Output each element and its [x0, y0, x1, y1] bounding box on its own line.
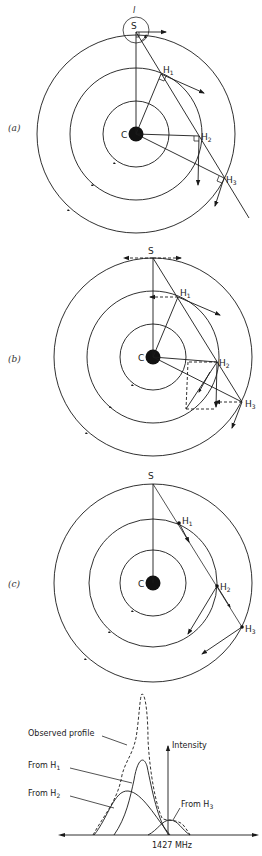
rotation-arrow-icon: [113, 162, 116, 164]
from-h1-leader: [70, 768, 132, 783]
radius-h1: [136, 74, 161, 134]
rotation-arrow-icon: [85, 432, 88, 434]
velocity-h2: [188, 586, 217, 634]
rotation-arrow-icon: [84, 658, 87, 660]
radius-h2: [153, 357, 217, 362]
cloud-label-h2: H2: [219, 358, 230, 369]
cloud-label-h3: H3: [245, 624, 256, 635]
cloud-label-h1: H1: [180, 288, 191, 299]
from-h1-label: From H1: [28, 761, 60, 771]
from-h3-leader: [173, 808, 180, 820]
line-of-sight: [136, 32, 249, 218]
intensity-label: Intensity: [172, 741, 207, 750]
sun-marker-label: l: [133, 6, 136, 15]
rotation-arrow-icon: [131, 384, 134, 386]
cloud-label-h2: H2: [201, 132, 212, 143]
panel-b: (b) C S H1 H2 H3: [8, 246, 256, 456]
center-label: C: [138, 353, 144, 363]
panel-a: (a) C S l H1: [8, 6, 249, 233]
center-label: C: [121, 130, 127, 140]
spectrum-plot: Intensity 1427 MHz Observed profile From…: [28, 694, 259, 850]
velocity-h3: [202, 627, 242, 654]
cloud-label-h1: H1: [163, 65, 174, 76]
velocity-h2: [216, 362, 217, 407]
from-h2-leader: [70, 796, 114, 808]
from-h3-label: From H3: [181, 800, 213, 810]
right-angle-mark: [194, 136, 199, 141]
panel-label-a: (a): [8, 123, 21, 133]
frequency-tick-label: 1427 MHz: [152, 841, 192, 850]
panel-label-b: (b): [8, 354, 21, 364]
observed-profile: [93, 694, 190, 835]
radius-h1: [153, 297, 178, 357]
panel-label-c: (c): [8, 579, 21, 589]
radial-component-h2: [199, 372, 210, 392]
axis-arrow-right-icon: [252, 833, 259, 837]
cloud-label-h2: H2: [220, 582, 231, 593]
line-of-sight: [153, 258, 242, 402]
velocity-h1: [178, 297, 220, 315]
cloud-label-h1: H1: [182, 516, 193, 527]
rotation-arrow-icon: [131, 610, 134, 612]
longitude-angle-arc: [141, 35, 146, 41]
parallelogram-side: [186, 362, 188, 409]
sun-label: S: [131, 21, 137, 31]
rotation-arrow-icon: [67, 209, 70, 211]
radius-h2: [136, 134, 199, 136]
observed-profile-label: Observed profile: [28, 729, 94, 738]
panel-c: (c) C S H1 H2 H3: [8, 471, 256, 682]
sun-label: S: [148, 471, 154, 481]
velocity-h2: [198, 136, 199, 185]
galactic-rotation-diagram: (a) C S l H1: [0, 0, 262, 856]
cloud-label-h3: H3: [226, 175, 237, 186]
sun-label: S: [148, 246, 154, 256]
axis-arrow-left-icon: [58, 833, 65, 837]
observed-leader: [102, 736, 127, 745]
profile-h1: [114, 760, 169, 835]
from-h2-label: From H2: [28, 789, 60, 799]
profile-h3: [148, 820, 190, 835]
cloud-label-h3: H3: [245, 399, 256, 410]
center-label: C: [138, 579, 144, 589]
